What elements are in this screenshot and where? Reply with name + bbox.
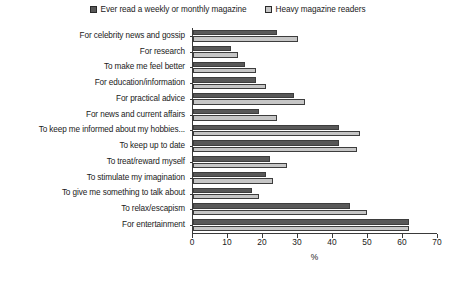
category-label: For news and current affairs (0, 107, 189, 123)
x-tick-label: 0 (190, 238, 195, 246)
bar-series-2 (193, 131, 360, 136)
x-tick-label: 40 (327, 238, 336, 246)
bar-series-2 (193, 52, 238, 57)
bar-series-2 (193, 194, 259, 199)
bar-group (193, 44, 437, 60)
legend-item-series-2: Heavy magazine readers (265, 5, 366, 14)
x-tick-label: 20 (257, 238, 266, 246)
category-axis-labels: For celebrity news and gossipFor researc… (0, 28, 189, 233)
category-label: To relax/escapism (0, 201, 189, 217)
x-axis-ticks: 010203040506070 (192, 234, 437, 250)
bar-group (193, 28, 437, 44)
category-label: To keep up to date (0, 138, 189, 154)
bar-series-2 (193, 163, 287, 168)
bar-series-1 (193, 140, 339, 145)
bar-series-1 (193, 77, 256, 82)
bar-group (193, 201, 437, 217)
legend-dark-square-icon (90, 6, 97, 13)
category-tick (190, 146, 194, 147)
legend-label-series-2: Heavy magazine readers (276, 5, 366, 14)
category-label: To stimulate my imagination (0, 170, 189, 186)
bar-group (193, 154, 437, 170)
bar-series-1 (193, 46, 231, 51)
category-tick (190, 67, 194, 68)
bar-group (193, 123, 437, 139)
bar-series-1 (193, 219, 409, 224)
category-label: For education/information (0, 75, 189, 91)
category-tick (190, 162, 194, 163)
legend-item-series-1: Ever read a weekly or monthly magazine (90, 5, 247, 14)
bar-group (193, 170, 437, 186)
x-tick-label: 60 (397, 238, 406, 246)
category-tick (190, 130, 194, 131)
category-label: For entertainment (0, 217, 189, 233)
category-tick (190, 209, 194, 210)
bar-series-2 (193, 68, 256, 73)
category-tick (190, 99, 194, 100)
category-tick (190, 178, 194, 179)
category-label: For celebrity news and gossip (0, 28, 189, 44)
category-label: To give me something to talk about (0, 186, 189, 202)
category-tick (190, 36, 194, 37)
legend-label-series-1: Ever read a weekly or monthly magazine (101, 5, 247, 14)
x-tick-label: 70 (432, 238, 441, 246)
chart-legend: Ever read a weekly or monthly magazine H… (0, 5, 455, 14)
category-tick (190, 52, 194, 53)
bar-series-1 (193, 188, 252, 193)
category-label: For practical advice (0, 91, 189, 107)
x-tick-label: 10 (222, 238, 231, 246)
horizontal-bar-chart: Ever read a weekly or monthly magazine H… (0, 0, 455, 283)
category-label: To make me feel better (0, 60, 189, 76)
bar-series-1 (193, 93, 294, 98)
bar-series-1 (193, 172, 266, 177)
bar-group (193, 138, 437, 154)
bar-rows (193, 28, 437, 233)
bar-group (193, 91, 437, 107)
bar-series-1 (193, 30, 277, 35)
category-label: For research (0, 44, 189, 60)
bar-group (193, 107, 437, 123)
bar-series-2 (193, 226, 409, 231)
bar-group (193, 186, 437, 202)
bar-group (193, 60, 437, 76)
bar-group (193, 75, 437, 91)
x-axis-title: % (192, 252, 437, 262)
category-label: To treat/reward myself (0, 154, 189, 170)
bar-series-2 (193, 210, 367, 215)
category-tick (190, 83, 194, 84)
category-tick (190, 225, 194, 226)
bar-group (193, 217, 437, 233)
bar-series-2 (193, 84, 266, 89)
x-tick-label: 30 (292, 238, 301, 246)
category-tick (190, 194, 194, 195)
bar-series-1 (193, 125, 339, 130)
bar-series-1 (193, 203, 350, 208)
category-tick (190, 115, 194, 116)
bar-series-1 (193, 156, 270, 161)
bar-series-2 (193, 115, 277, 120)
bar-series-2 (193, 36, 298, 41)
bar-series-1 (193, 62, 245, 67)
bar-series-2 (193, 147, 357, 152)
bar-series-2 (193, 178, 273, 183)
bar-series-1 (193, 109, 259, 114)
x-tick-label: 50 (362, 238, 371, 246)
bar-series-2 (193, 99, 305, 104)
plot-area (192, 28, 437, 233)
legend-light-square-icon (265, 6, 272, 13)
category-label: To keep me informed about my hobbies... (0, 123, 189, 139)
